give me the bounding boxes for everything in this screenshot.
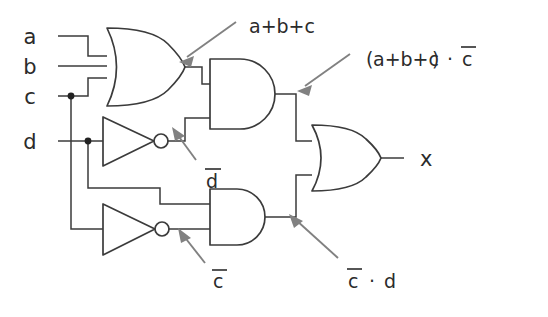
label-input-c: c [24,85,36,109]
gate-or1 [107,28,185,106]
annotation-not1-arrow-head [172,127,185,141]
wire-input-c [58,78,107,96]
annotation-and2-text-dot: · [369,270,375,292]
not2-bubble [155,222,169,236]
wire-or1-to-and1 [185,67,210,84]
annotation-and1-text-close: ) [432,48,439,70]
annotation-and2-text-group: c · d [347,269,396,292]
annotation-and2-arrow-line [296,220,338,258]
wire-input-a [58,36,107,56]
annotation-and1-text-cbar: c [462,48,472,70]
annotation-and2-output: c · d [289,214,396,292]
wire-d-branch-down [88,141,210,204]
junction-d [85,138,92,145]
annotation-and1-text-inner: a+b+c [373,48,439,70]
and1-body [210,59,275,129]
wire-and2-to-or2 [265,175,312,217]
annotation-not1-text-dbar: d [206,170,218,192]
annotation-and2-text-d: d [384,270,396,292]
annotation-and1-output: ( a+b+c ) · c [297,47,476,96]
label-input-d: d [23,130,36,154]
annotation-not1-output: d [172,127,221,192]
not1-body [103,117,154,166]
label-output-x: x [420,147,432,171]
annotation-not2-output: c [178,228,227,292]
gate-not2 [103,204,169,255]
annotation-not2-text-cbar: c [213,270,223,292]
label-input-a: a [24,25,37,49]
annotation-and1-text-dot: · [447,48,453,70]
wire-c-branch-down [71,96,103,229]
gate-or2 [312,125,381,191]
junction-c [68,93,75,100]
circuit-svg: a b c d x a+b+c ( a+b+c ) · c [0,0,548,317]
label-input-b: b [23,55,36,79]
or1-body [107,28,185,106]
annotation-and1-arrow-head [297,85,312,96]
gate-and1 [210,59,275,129]
logic-circuit-diagram: a b c d x a+b+c ( a+b+c ) · c [0,0,548,317]
annotation-and2-text-cbar: c [348,270,358,292]
gate-and2 [210,189,265,245]
not2-body [103,204,155,255]
annotation-and1-text-group: ( a+b+c ) · c [366,47,476,70]
and2-body [210,189,265,245]
or2-body [312,125,381,191]
annotation-or1-text: a+b+c [249,15,315,37]
annotation-or1-arrow-line [187,22,236,57]
gate-not1 [103,117,168,166]
not1-bubble [154,134,168,148]
annotation-or1-arrow-head [179,56,194,67]
annotation-and1-arrow-line [305,54,350,86]
annotation-not2-arrow-head [178,228,191,243]
wire-and1-to-or2 [275,94,312,141]
